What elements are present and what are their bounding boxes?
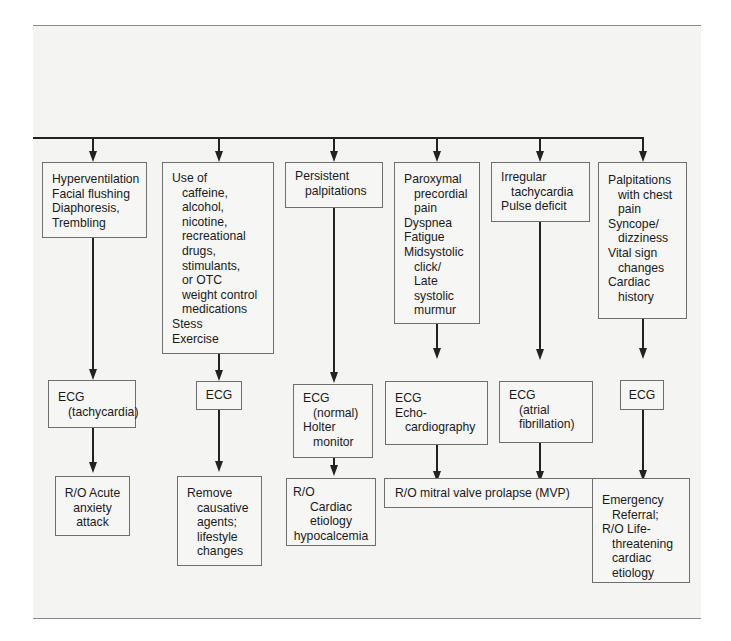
box-line: causative (187, 501, 252, 516)
box-line: Vital sign (608, 246, 677, 261)
box-line: hypocalcemia (293, 529, 369, 544)
box-line: Cardiac (293, 500, 369, 515)
box-line: ECG (58, 390, 126, 405)
box-line: cardiac (602, 551, 680, 566)
box-line: (normal) (303, 406, 363, 421)
arrow-down-icon (215, 151, 223, 162)
test-box-ecg-echo: ECG Echo- cardiography (385, 381, 488, 445)
arrow-down-icon (639, 151, 647, 162)
box-line: Pulse deficit (501, 199, 580, 214)
main-connector-line (33, 137, 644, 139)
box-line: drugs, (172, 244, 264, 259)
box-line: monitor (303, 435, 363, 450)
presentation-box-irregular-tachycardia: Irregular tachycardia Pulse deficit (491, 162, 590, 222)
box-line: systolic (404, 289, 470, 304)
test-box-ecg-emergency: ECG (620, 380, 664, 410)
arrow-down-icon (330, 372, 338, 383)
box-line: pain (404, 201, 470, 216)
box-line: Referral; (602, 508, 680, 523)
box-line: Midsystolic (404, 245, 470, 260)
box-line: R/O Acute (60, 486, 125, 501)
box-line: Fatigue (404, 230, 470, 245)
flow-line (92, 428, 94, 463)
box-line: (tachycardia) (58, 405, 126, 420)
box-line: weight control (172, 288, 264, 303)
box-line: tachycardia (501, 185, 580, 200)
arrow-down-icon (89, 369, 97, 380)
box-line: Paroxymal (404, 172, 470, 187)
box-line: click/ (404, 260, 470, 275)
outcome-box-remove-agents: Remove causative agents; lifestyle chang… (177, 476, 262, 566)
box-line: agents; (187, 515, 252, 530)
box-line: Exercise (172, 332, 264, 347)
box-line: Holter (303, 420, 363, 435)
box-line: Facial flushing (52, 187, 137, 202)
box-line: murmur (404, 303, 470, 318)
arrow-down-icon (89, 151, 97, 162)
box-line: changes (187, 544, 252, 559)
flow-line (642, 410, 644, 472)
arrow-down-icon (433, 151, 441, 162)
test-box-ecg-tachycardia: ECG (tachycardia) (48, 380, 136, 428)
box-line: precordial (404, 187, 470, 202)
box-line: cardiography (395, 420, 478, 435)
connector-drop-2 (218, 138, 220, 152)
connector-drop-1 (92, 138, 94, 152)
test-box-ecg: ECG (196, 381, 242, 410)
arrow-down-icon (536, 349, 544, 360)
box-line: caffeine, (172, 186, 264, 201)
arrow-down-icon (215, 461, 223, 472)
box-line: ECG (623, 388, 661, 403)
arrow-down-icon (330, 151, 338, 162)
box-line: history (608, 290, 677, 305)
flow-line (539, 443, 541, 473)
flow-line (218, 410, 220, 462)
arrow-down-icon (433, 348, 441, 359)
box-line: etiology (293, 514, 369, 529)
connector-drop-5 (539, 138, 541, 152)
box-line: ECG (395, 391, 478, 406)
box-line: lifestyle (187, 530, 252, 545)
presentation-box-mvp-symptoms: Paroxymal precordial pain Dyspnea Fatigu… (394, 162, 480, 324)
presentation-box-anxiety: Hyperventilation Facial flushing Diaphor… (42, 162, 147, 238)
test-box-ecg-atrial-fibrillation: ECG (atrial fibrillation) (499, 381, 593, 443)
flow-line (642, 319, 644, 349)
arrow-down-icon (89, 462, 97, 473)
box-line: Stess (172, 317, 264, 332)
bottom-rule (33, 618, 701, 619)
presentation-box-emergency-symptoms: Palpitations with chest pain Syncope/ di… (598, 162, 687, 319)
outcome-box-mvp: R/O mitral valve prolapse (MVP) (384, 478, 604, 508)
outcome-box-anxiety-attack: R/O Acute anxiety attack (55, 476, 130, 536)
outcome-box-cardiac-hypocalcemia: R/O Cardiac etiology hypocalcemia (286, 478, 376, 546)
box-line: attack (60, 515, 125, 530)
box-line: palpitations (295, 184, 373, 199)
box-line: fibrillation) (509, 417, 583, 432)
box-line: Use of (172, 171, 264, 186)
arrow-down-icon (639, 348, 647, 359)
box-line: ECG (303, 391, 363, 406)
box-line: Hyperventilation (52, 172, 137, 187)
box-line: Echo- (395, 406, 478, 421)
top-rule (33, 25, 701, 26)
connector-drop-3 (333, 138, 335, 152)
box-line: medications (172, 302, 264, 317)
box-line: Dyspnea (404, 216, 470, 231)
box-line: Late (404, 274, 470, 289)
presentation-box-substance-use: Use of caffeine, alcohol, nicotine, recr… (162, 162, 274, 354)
box-line: Palpitations (608, 173, 677, 188)
box-line: Trembling (52, 216, 137, 231)
box-line: Emergency (602, 493, 680, 508)
box-line: etiology (602, 566, 680, 581)
flow-line (436, 445, 438, 473)
box-line: ECG (509, 388, 583, 403)
test-box-ecg-holter: ECG (normal) Holter monitor (293, 384, 373, 458)
box-line: Remove (187, 486, 252, 501)
outcome-box-emergency-referral: Emergency Referral; R/O Life- threatenin… (592, 478, 690, 583)
arrow-down-icon (536, 151, 544, 162)
presentation-box-persistent-palpitations: Persistent palpitations (285, 162, 383, 208)
box-line: Diaphoresis, (52, 201, 137, 216)
box-line: alcohol, (172, 200, 264, 215)
box-line: nicotine, (172, 215, 264, 230)
box-line: Persistent (295, 169, 373, 184)
box-line: Irregular (501, 170, 580, 185)
